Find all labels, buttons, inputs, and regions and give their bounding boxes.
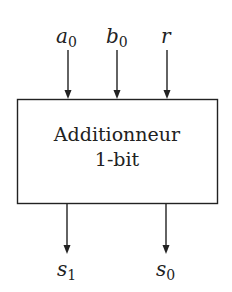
input-arrow-a0 (65, 50, 72, 99)
input-arrow-r (164, 50, 171, 99)
output-arrow-s1 (64, 204, 71, 254)
input-label-r: r (161, 24, 172, 48)
adder-diagram: a0 b0 r Additionneur 1-bit s1 s0 (0, 0, 232, 292)
block-label-line2: 1-bit (95, 148, 140, 170)
output-label-s0: s0 (156, 257, 175, 283)
input-arrow-b0 (114, 50, 121, 99)
block-label-line1: Additionneur (53, 123, 181, 145)
input-label-b0: b0 (106, 24, 128, 50)
output-label-s1: s1 (57, 257, 76, 283)
output-arrow-s0 (163, 204, 170, 254)
input-label-a0: a0 (56, 24, 77, 50)
